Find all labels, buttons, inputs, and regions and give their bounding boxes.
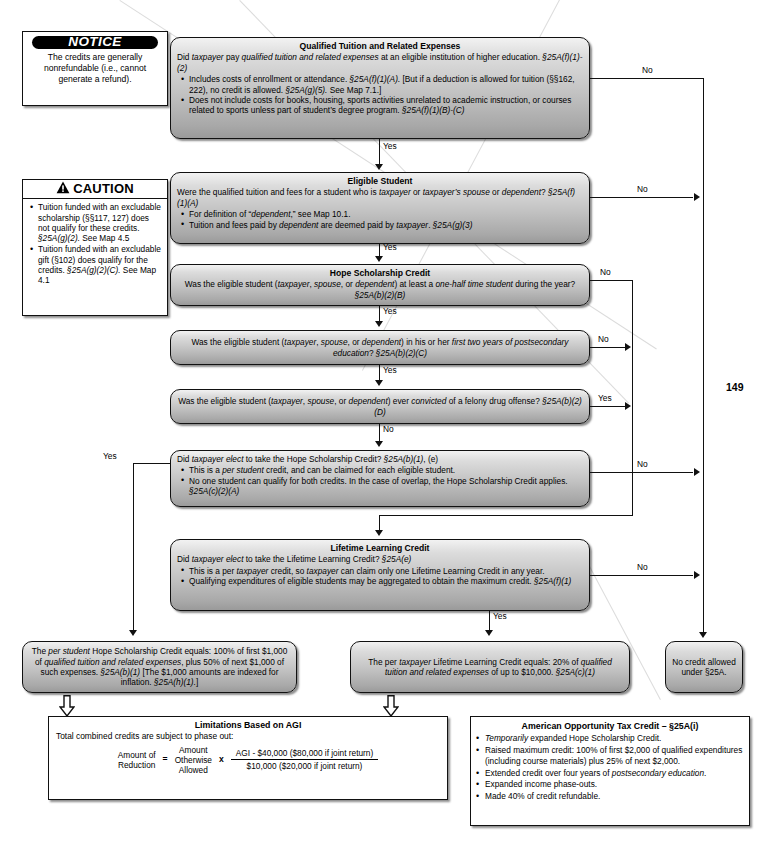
node-bullet: This is a per student credit, and can be… [189, 465, 583, 475]
formula-mid-line3: Allowed [175, 765, 212, 775]
connector-hope-halftime-yes [379, 306, 380, 322]
arrow-es-to-hope [375, 256, 383, 262]
connector-hope-elect-yes [133, 463, 171, 464]
formula-numerator: AGI - $40,000 ($80,000 if joint return) [231, 748, 378, 760]
aotc-item: Temporarily expanded Hope Scholarship Cr… [485, 733, 745, 743]
arrow-to-no-credit [699, 632, 707, 638]
connector-hope-felony-no [379, 424, 380, 442]
agi-limitations-box: Limitations Based on AGI Total combined … [48, 716, 448, 800]
aotc-item: Extended credit over four years of posts… [485, 768, 745, 778]
arrow-hope-firsttwo-yes [375, 380, 383, 386]
caution-label: CAUTION [73, 184, 134, 194]
result-text: The per student Hope Scholarship Credit … [29, 646, 290, 688]
result-text: The per taxpayer Lifetime Learning Credi… [357, 657, 623, 678]
formula-left: Amount of Reduction [118, 750, 156, 770]
node-bullet: This is a per taxpayer credit, so taxpay… [189, 566, 583, 576]
node-bullet: Does not include costs for books, housin… [189, 95, 583, 116]
node-bullet: Includes costs of enrollment or attendan… [189, 74, 583, 95]
arrow-hope-firsttwo-no [625, 343, 631, 351]
connector-hope-elect-yes-down [133, 463, 134, 631]
node-hope-felony-drug[interactable]: Was the eligible student (taxpayer, spou… [170, 389, 590, 424]
formula-mid-line2: Otherwise [175, 755, 212, 765]
connector-hope-halftime-no [590, 280, 633, 281]
arrow-hope-felony-no [375, 441, 383, 447]
formula-denominator: $10,000 ($20,000 if joint return) [231, 760, 378, 771]
aotc-item: Expanded income phase-outs. [485, 779, 745, 789]
node-question: Was the eligible student (taxpayer, spou… [177, 337, 583, 358]
agi-subtext: Total combined credits are subject to ph… [49, 731, 447, 743]
arrow-to-lifetime [375, 530, 383, 536]
node-header: Hope Scholarship Credit [177, 268, 583, 278]
connector-hope-firsttwo-no [590, 347, 628, 348]
edge-label-hope-firsttwo-no: No [598, 335, 609, 344]
edge-label-hope-halftime-yes: Yes [383, 307, 397, 316]
node-header: Eligible Student [177, 176, 583, 186]
node-lifetime-learning-elect[interactable]: Lifetime Learning Credit Did taxpayer el… [170, 539, 590, 611]
node-question: Did taxpayer elect to take the Lifetime … [177, 554, 583, 564]
page-number: 149 [726, 381, 744, 393]
arrow-lifetime-yes [485, 630, 493, 636]
connector-hope-elect-no [590, 472, 693, 473]
node-bullet: No one student can qualify for both cred… [189, 476, 583, 497]
connector-lifetime-yes [489, 611, 490, 632]
node-question: Were the qualified tuition and fees for … [177, 187, 583, 208]
edge-label-qt-yes: Yes [383, 142, 397, 151]
aotc-header: American Opportunity Tax Credit – §25A(i… [471, 717, 749, 733]
result-text: No credit allowed under §25A. [672, 657, 736, 678]
arrow-hope-elect-no [694, 468, 700, 476]
formula-left-line1: Amount of [118, 750, 156, 760]
edge-label-hope-felony-yes: Yes [598, 394, 612, 403]
aotc-item: Raised maximum credit: 100% of first $2,… [485, 745, 745, 766]
notice-box: NOTICE The credits are generally nonrefu… [22, 31, 168, 106]
node-header: Qualified Tuition and Related Expenses [177, 41, 583, 51]
edge-label-hope-felony-no: No [383, 425, 394, 434]
caution-box: CAUTION Tuition funded with an excludabl… [22, 179, 168, 316]
flowchart-page: NOTICE The credits are generally nonrefu… [0, 0, 775, 841]
connector-right-trunk [703, 78, 704, 634]
arrow-es-no [694, 193, 700, 201]
node-bullet: For definition of “dependent,” see Map 1… [189, 209, 583, 219]
connector-lifetime-no [590, 575, 693, 576]
connector-hope-group-return [379, 515, 633, 516]
connector-hope-firsttwo-yes [379, 365, 380, 381]
aotc-box: American Opportunity Tax Credit – §25A(i… [470, 716, 750, 826]
arrow-hope-elect-yes [129, 630, 137, 636]
connector-hope-felony-yes [590, 406, 628, 407]
edge-label-lifetime-yes: Yes [493, 612, 507, 621]
formula-fraction: AGI - $40,000 ($80,000 if joint return) … [231, 748, 378, 772]
connector-es-no [590, 197, 693, 198]
edge-label-hope-firsttwo-yes: Yes [383, 366, 397, 375]
agi-header: Limitations Based on AGI [49, 717, 447, 731]
connector-qt-no [590, 78, 704, 79]
formula-equals: = [163, 754, 168, 764]
node-lifetime-credit-result[interactable]: The per taxpayer Lifetime Learning Credi… [350, 641, 630, 693]
edge-label-hope-elect-no: No [637, 460, 648, 469]
node-hope-halftime[interactable]: Hope Scholarship Credit Was the eligible… [170, 264, 590, 306]
agi-formula: Amount of Reduction = Amount Otherwise A… [49, 744, 447, 780]
node-header: Lifetime Learning Credit [177, 543, 583, 553]
warning-triangle-icon [56, 181, 70, 196]
node-question: Did taxpayer elect to take the Hope Scho… [177, 454, 583, 464]
edge-label-lifetime-no: No [637, 563, 648, 572]
formula-mid-line1: Amount [175, 745, 212, 755]
arrow-qt-to-eligible [375, 164, 383, 170]
formula-left-line2: Reduction [118, 760, 156, 770]
node-hope-first-two-years[interactable]: Was the eligible student (taxpayer, spou… [170, 330, 590, 365]
block-arrow-hope-to-agi [59, 695, 75, 717]
block-arrow-lifetime-to-agi [383, 695, 399, 717]
edge-label-es-no: No [637, 185, 648, 194]
node-eligible-student[interactable]: Eligible Student Were the qualified tuit… [170, 172, 590, 244]
arrow-lifetime-no [694, 571, 700, 579]
node-hope-credit-result[interactable]: The per student Hope Scholarship Credit … [22, 641, 297, 693]
aotc-body: Temporarily expanded Hope Scholarship Cr… [471, 733, 749, 806]
notice-text: The credits are generally nonrefundable … [23, 52, 167, 90]
formula-times: x [219, 754, 224, 764]
arrow-hope-halftime-yes [375, 321, 383, 327]
caution-item: Tuition funded with an excludable gift (… [38, 244, 162, 285]
node-qualified-tuition[interactable]: Qualified Tuition and Related Expenses D… [170, 37, 590, 139]
edge-label-hope-elect-yes: Yes [103, 452, 117, 461]
edge-label-hope-halftime-no: No [600, 268, 611, 277]
node-no-credit-result[interactable]: No credit allowed under §25A. [665, 641, 743, 693]
connector-qt-yes [379, 139, 380, 166]
node-hope-elect[interactable]: Did taxpayer elect to take the Hope Scho… [170, 450, 590, 507]
